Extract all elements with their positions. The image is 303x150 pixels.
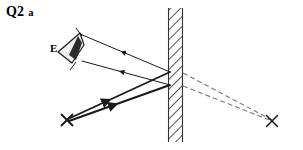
page-title: Q2a	[6, 4, 34, 20]
virtual-ray-group	[183, 73, 272, 121]
virtual-ray-lower	[183, 86, 272, 121]
incident-ray-upper	[68, 72, 170, 119]
incident-ray-lower	[69, 85, 170, 121]
plane-mirror	[168, 8, 183, 142]
question-part: a	[28, 7, 33, 18]
incident-ray-group	[68, 72, 170, 121]
ray-diagram-svg	[0, 0, 303, 150]
reflected-ray-lower	[82, 61, 170, 85]
reflected-ray-upper	[80, 34, 170, 72]
eye-lash-lower	[70, 62, 76, 70]
virtual-image-marker	[267, 116, 278, 127]
virtual-ray-upper	[183, 73, 272, 120]
question-number: Q2	[6, 4, 24, 19]
eye-label: E	[50, 42, 57, 54]
mirror-hatching	[168, 8, 183, 142]
eye-symbol	[58, 28, 84, 70]
diagram-canvas	[0, 0, 303, 150]
